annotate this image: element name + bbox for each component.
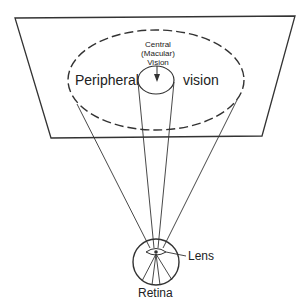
central-ray-left xyxy=(138,82,154,248)
central-label-line-3: Vision xyxy=(138,58,178,67)
eyeball xyxy=(133,239,179,285)
visual-field-plane xyxy=(15,16,295,138)
peripheral-label: Peripheral xyxy=(75,72,139,88)
vision-label: vision xyxy=(183,72,219,88)
lens-label: Lens xyxy=(188,249,214,263)
retina-ray-3 xyxy=(156,254,160,285)
lens-pointer xyxy=(166,252,186,256)
retina-label: Retina xyxy=(138,286,173,300)
pupil xyxy=(154,250,158,254)
central-arrow-head xyxy=(154,74,160,82)
visual-field-diagram: Central (Macular) Vision Peripheral visi… xyxy=(0,0,306,302)
central-label-line-2: (Macular) xyxy=(138,49,178,58)
central-ray-right xyxy=(158,82,174,248)
peripheral-ray-right xyxy=(163,100,237,248)
central-label-line-1: Central xyxy=(138,40,178,49)
central-vision-label: Central (Macular) Vision xyxy=(138,40,178,67)
peripheral-ray-left xyxy=(77,104,150,248)
central-vision-circle xyxy=(138,66,174,94)
